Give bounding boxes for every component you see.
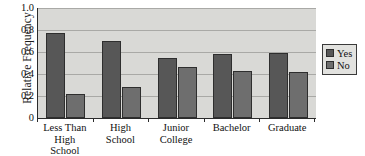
- bar-no: [122, 87, 141, 118]
- legend-swatch-icon: [326, 61, 334, 69]
- legend-label: Yes: [337, 48, 352, 59]
- y-tick-label: 0.4: [8, 69, 34, 80]
- y-tick-label: 1.0: [8, 3, 34, 14]
- x-axis-category-labels: Less Than High SchoolHigh SchoolJunior C…: [37, 122, 315, 156]
- y-tick-label: 0.8: [8, 25, 34, 36]
- x-category-label: Bachelor: [204, 122, 260, 134]
- legend-item-no[interactable]: No: [326, 59, 352, 71]
- bar-chart: Relative Frequency 00.20.40.60.81.0 Less…: [0, 0, 365, 156]
- x-category-label: Junior College: [148, 122, 204, 145]
- y-tick-label: 0.2: [8, 91, 34, 102]
- bar-group: [213, 8, 252, 118]
- bar-yes: [213, 54, 232, 118]
- bar-no: [178, 67, 197, 118]
- x-category-label: Less Than High School: [37, 122, 93, 156]
- bar-group: [102, 8, 141, 118]
- bar-yes: [269, 53, 288, 118]
- bar-group: [46, 8, 85, 118]
- y-axis-tick-labels: 00.20.40.60.81.0: [5, 0, 34, 156]
- y-tick-label: 0.6: [8, 47, 34, 58]
- x-category-label: High School: [93, 122, 149, 145]
- legend-swatch-icon: [326, 49, 334, 57]
- bar-no: [233, 71, 252, 118]
- bar-yes: [102, 41, 121, 118]
- bar-no: [66, 94, 85, 118]
- bars-layer: [38, 8, 316, 118]
- y-tick-label: 0: [8, 113, 34, 124]
- bar-group: [269, 8, 308, 118]
- bar-group: [158, 8, 197, 118]
- bar-yes: [46, 33, 65, 118]
- x-category-label: Graduate: [259, 122, 315, 134]
- bar-yes: [158, 58, 177, 119]
- plot-area: [37, 8, 316, 119]
- legend: YesNo: [322, 44, 357, 75]
- legend-item-yes[interactable]: Yes: [326, 47, 352, 59]
- legend-label: No: [337, 60, 350, 71]
- bar-no: [289, 72, 308, 118]
